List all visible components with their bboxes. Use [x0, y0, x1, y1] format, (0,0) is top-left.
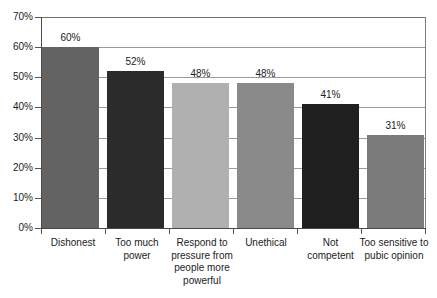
- y-tick-label-30: 30%: [0, 133, 33, 143]
- bar-not-competent[interactable]: [302, 104, 359, 228]
- plot-right-border: [425, 17, 426, 229]
- x-tick-mark-1: [105, 229, 106, 234]
- y-tick-label-60: 60%: [0, 42, 33, 52]
- x-tick-mark-3: [233, 229, 234, 234]
- y-tick-label-70: 70%: [0, 12, 33, 22]
- x-tick-mark-6: [425, 229, 426, 234]
- value-label-1: 52%: [107, 57, 164, 67]
- bar-unethical[interactable]: [237, 83, 294, 228]
- value-label-5: 31%: [367, 121, 424, 131]
- bar-respond-to-pressure[interactable]: [172, 83, 229, 228]
- bar-too-much-power[interactable]: [107, 71, 164, 228]
- x-tick-mark-2: [169, 229, 170, 234]
- y-tick-label-40: 40%: [0, 102, 33, 112]
- value-label-3: 48%: [237, 69, 294, 79]
- category-label-not-competent: Not competent: [299, 237, 362, 262]
- category-label-too-sensitive: Too sensitive to pubic opinion: [358, 237, 430, 262]
- category-label-too-much-power: Too much power: [104, 237, 170, 262]
- value-label-4: 41%: [302, 90, 359, 100]
- y-tick-label-10: 10%: [0, 193, 33, 203]
- value-label-0: 60%: [42, 33, 99, 43]
- x-tick-mark-4: [297, 229, 298, 234]
- y-axis-line: [41, 17, 42, 229]
- y-axis: 70% 60% 50% 40% 30% 20% 10% 0%: [0, 0, 33, 298]
- bar-too-sensitive[interactable]: [367, 135, 424, 228]
- x-tick-mark-0: [41, 229, 42, 234]
- value-label-2: 48%: [172, 69, 229, 79]
- x-tick-mark-5: [361, 229, 362, 234]
- category-label-dishonest: Dishonest: [38, 237, 108, 250]
- y-tick-label-20: 20%: [0, 163, 33, 173]
- category-label-respond-to-pressure: Respond to pressure from people more pow…: [166, 237, 238, 287]
- y-tick-label-0: 0%: [0, 223, 33, 233]
- bar-chart: 70% 60% 50% 40% 30% 20% 10% 0% 6: [0, 0, 437, 298]
- bar-dishonest[interactable]: [42, 47, 99, 228]
- y-tick-label-50: 50%: [0, 72, 33, 82]
- category-label-unethical: Unethical: [232, 237, 300, 250]
